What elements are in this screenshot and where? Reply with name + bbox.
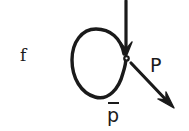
label-fermion: f xyxy=(20,47,26,64)
vertex-dot-highlight xyxy=(125,57,127,59)
diagram-canvas: f P p xyxy=(0,0,189,131)
closed-loop-path xyxy=(72,29,126,98)
label-antiproton-glyph: p xyxy=(107,106,119,124)
label-momentum-P: P xyxy=(150,56,161,75)
label-antiproton: p xyxy=(107,102,119,124)
